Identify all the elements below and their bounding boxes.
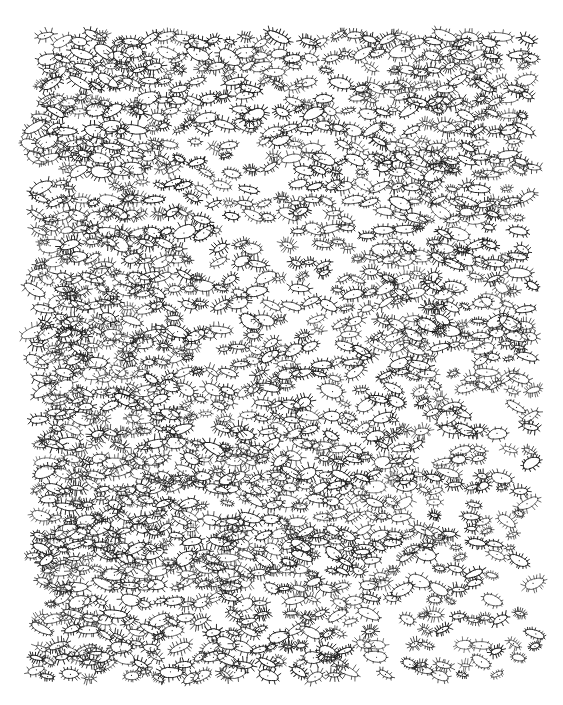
eye-motif-field: [0, 0, 563, 705]
artwork-canvas: Field of Eye Motifs black ink pen on whi…: [0, 0, 563, 705]
